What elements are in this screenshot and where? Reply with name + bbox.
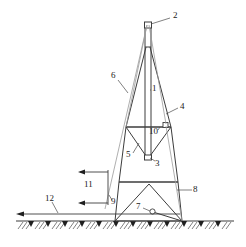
right-leg-mid	[171, 127, 178, 182]
label-7: 7	[136, 202, 141, 211]
leader-12	[52, 202, 58, 213]
label-10: 10	[149, 127, 158, 136]
leader-4	[166, 108, 178, 114]
lower-a-frame	[115, 184, 182, 221]
v-truss-bottom-node	[145, 155, 152, 160]
label-4: 4	[180, 102, 185, 111]
technical-drawing	[0, 0, 246, 247]
leader-lines-group	[52, 18, 192, 213]
label-1: 1	[152, 84, 157, 93]
label-2: 2	[173, 11, 178, 20]
load-arrow-upper-head	[78, 170, 85, 175]
guy-line-to-right-node	[149, 25, 166, 124]
load-arrow-lower-head	[78, 201, 85, 206]
label-8: 8	[193, 185, 198, 194]
a-frame-left-diagonal	[115, 184, 149, 221]
ground-tie-arrow-head	[16, 211, 24, 216]
ground-group	[16, 221, 234, 229]
left-leg-upper	[126, 47, 146, 127]
label-5: 5	[126, 150, 131, 159]
leader-6	[118, 80, 128, 93]
load-arrows-annotation	[78, 170, 108, 206]
label-6: 6	[111, 71, 116, 80]
label-11: 11	[84, 180, 93, 189]
base-pivot-circle	[150, 209, 155, 214]
mast-top-cap	[145, 22, 152, 28]
label-3: 3	[155, 159, 160, 168]
leader-2	[151, 18, 170, 24]
label-12: 12	[45, 194, 54, 203]
leader-5	[133, 143, 139, 153]
guy-line-right-lower	[166, 126, 182, 221]
guy-line-inner-left	[126, 25, 147, 127]
left-leg-mid	[119, 127, 126, 182]
label-9: 9	[111, 197, 116, 206]
figure-canvas: 2 6 1 4 10 5 3 8 11 9 7 12	[0, 0, 246, 247]
ground-anchor-triangles	[28, 221, 221, 227]
leader-7	[143, 208, 150, 211]
